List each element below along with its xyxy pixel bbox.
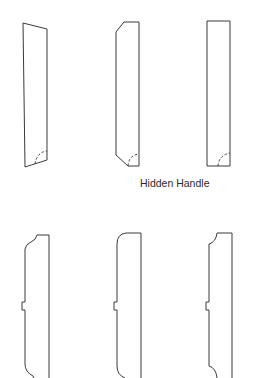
hidden-handle-arc (128, 154, 139, 166)
chamfered-profile (116, 22, 139, 166)
cove-edge-profile (206, 233, 232, 378)
ogee-edge-profile (22, 235, 49, 378)
figure-caption: Hidden Handle (140, 177, 209, 189)
hidden-handle-arc (218, 153, 230, 166)
door-profile-diagram (0, 0, 255, 378)
rounded-edge-profile (114, 233, 141, 378)
square-profile (207, 21, 230, 166)
tapered-top-profile (23, 23, 47, 167)
